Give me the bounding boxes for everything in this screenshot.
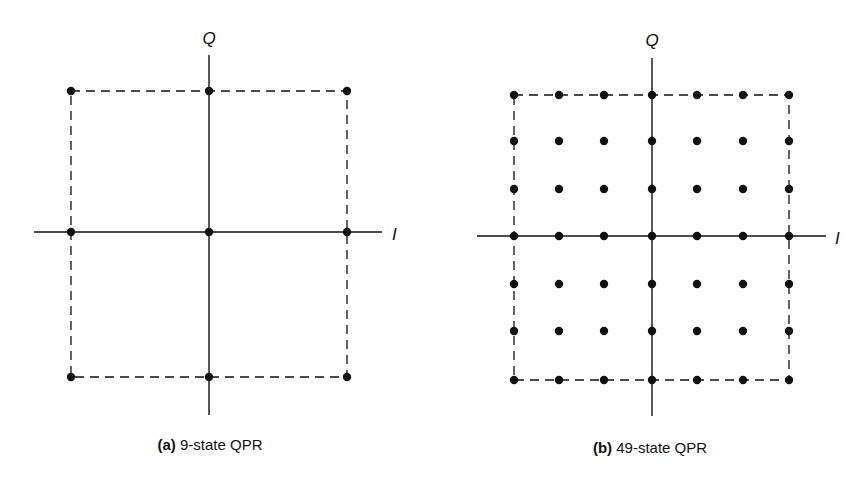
constellation-point bbox=[739, 327, 747, 335]
constellation-point bbox=[67, 373, 75, 381]
caption-text-a: 9-state QPR bbox=[176, 436, 263, 453]
constellation-point bbox=[67, 228, 75, 236]
q-axis-label: Q bbox=[645, 31, 658, 50]
constellation-point bbox=[343, 87, 351, 95]
constellation-point bbox=[648, 232, 656, 240]
constellation-point bbox=[510, 91, 518, 99]
constellation-point bbox=[555, 280, 563, 288]
q-axis-label: Q bbox=[202, 29, 215, 48]
constellation-point bbox=[739, 185, 747, 193]
constellation-point bbox=[785, 185, 793, 193]
constellation-point bbox=[648, 91, 656, 99]
constellation-point bbox=[343, 373, 351, 381]
constellation-point bbox=[739, 91, 747, 99]
constellation-point bbox=[343, 228, 351, 236]
constellation-point bbox=[648, 280, 656, 288]
constellation-point bbox=[648, 185, 656, 193]
constellation-point bbox=[600, 91, 608, 99]
constellation-point bbox=[693, 376, 701, 384]
panel-b: QI bbox=[477, 31, 840, 416]
constellation-point bbox=[648, 327, 656, 335]
caption-49-state-qpr: (b) 49-state QPR bbox=[593, 439, 707, 456]
constellation-point bbox=[600, 327, 608, 335]
constellation-point bbox=[693, 91, 701, 99]
caption-letter-a: (a) bbox=[157, 436, 175, 453]
constellation-point bbox=[693, 137, 701, 145]
constellation-point bbox=[67, 87, 75, 95]
constellation-point bbox=[555, 185, 563, 193]
constellation-point bbox=[555, 232, 563, 240]
constellation-point bbox=[693, 185, 701, 193]
constellation-point bbox=[510, 185, 518, 193]
constellation-point bbox=[555, 137, 563, 145]
constellation-point bbox=[600, 185, 608, 193]
constellation-point bbox=[205, 373, 213, 381]
constellation-point bbox=[510, 232, 518, 240]
constellation-point bbox=[739, 280, 747, 288]
constellation-point bbox=[693, 280, 701, 288]
constellation-point bbox=[785, 280, 793, 288]
i-axis-label: I bbox=[392, 225, 397, 244]
constellation-point bbox=[555, 376, 563, 384]
constellation-point bbox=[785, 91, 793, 99]
constellation-point bbox=[648, 137, 656, 145]
constellation-point bbox=[600, 137, 608, 145]
caption-text-b: 49-state QPR bbox=[612, 439, 707, 456]
qpr-constellation-diagram: QIQI bbox=[0, 0, 858, 482]
constellation-point bbox=[785, 137, 793, 145]
constellation-point bbox=[555, 327, 563, 335]
constellation-point bbox=[648, 376, 656, 384]
caption-letter-b: (b) bbox=[593, 439, 612, 456]
constellation-point bbox=[739, 232, 747, 240]
constellation-point bbox=[510, 280, 518, 288]
constellation-point bbox=[600, 280, 608, 288]
constellation-point bbox=[785, 376, 793, 384]
constellation-point bbox=[785, 327, 793, 335]
constellation-point bbox=[600, 232, 608, 240]
panel-a: QI bbox=[34, 29, 397, 415]
constellation-point bbox=[205, 228, 213, 236]
constellation-point bbox=[555, 91, 563, 99]
i-axis-label: I bbox=[835, 229, 840, 248]
constellation-point bbox=[600, 376, 608, 384]
constellation-point bbox=[205, 87, 213, 95]
constellation-point bbox=[510, 376, 518, 384]
caption-9-state-qpr: (a) 9-state QPR bbox=[157, 436, 262, 453]
constellation-point bbox=[739, 376, 747, 384]
constellation-point bbox=[693, 327, 701, 335]
constellation-point bbox=[510, 137, 518, 145]
constellation-point bbox=[739, 137, 747, 145]
constellation-point bbox=[785, 232, 793, 240]
constellation-point bbox=[510, 327, 518, 335]
constellation-point bbox=[693, 232, 701, 240]
